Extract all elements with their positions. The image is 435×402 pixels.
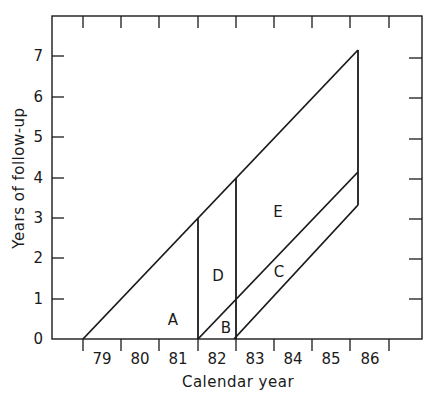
- x-axis-labels: 79 80 81 82 83 84 85 86: [92, 350, 379, 368]
- y-tick-3: 3: [33, 209, 43, 227]
- y-tick-1: 1: [33, 290, 43, 308]
- y-axis-title: Years of follow-up: [10, 107, 28, 249]
- x-tick-81: 81: [168, 350, 187, 368]
- y-axis-ticks-right: [409, 58, 422, 299]
- region-label-d: D: [212, 267, 224, 285]
- upper-diagonal-line: [83, 50, 358, 339]
- region-label-b: B: [221, 319, 231, 337]
- x-tick-83: 83: [245, 350, 264, 368]
- y-tick-2: 2: [33, 249, 43, 267]
- lower-diagonal-line: [234, 205, 358, 339]
- x-axis-ticks-top: [83, 16, 389, 28]
- region-label-e: E: [273, 203, 282, 221]
- x-tick-80: 80: [130, 350, 149, 368]
- y-tick-0: 0: [33, 330, 43, 348]
- y-tick-6: 6: [33, 88, 43, 106]
- y-axis-labels: 0 1 2 3 4 5 6 7: [33, 47, 43, 348]
- x-tick-86: 86: [360, 350, 379, 368]
- x-axis-title: Calendar year: [182, 373, 295, 391]
- region-label-c: C: [274, 263, 284, 281]
- x-tick-82: 82: [207, 350, 226, 368]
- x-tick-84: 84: [283, 350, 302, 368]
- y-axis-ticks-left: [52, 56, 64, 299]
- middle-diagonal-line: [198, 172, 358, 339]
- region-label-a: A: [168, 311, 179, 329]
- x-tick-79: 79: [92, 350, 111, 368]
- x-axis-ticks-bottom: [83, 339, 389, 351]
- lexis-diagram: 0 1 2 3 4 5 6 7 79 80 81 82 83 84 85 86 …: [0, 0, 435, 402]
- y-tick-4: 4: [33, 169, 43, 187]
- region-labels: A B C D E: [168, 203, 284, 337]
- y-tick-7: 7: [33, 47, 43, 65]
- x-tick-85: 85: [321, 350, 340, 368]
- y-tick-5: 5: [33, 128, 43, 146]
- diagram-lines: [83, 50, 358, 339]
